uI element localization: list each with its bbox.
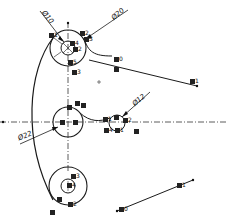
centerline-endpoint bbox=[67, 22, 69, 24]
constraint-marker[interactable]: 3 bbox=[84, 36, 93, 42]
constraint-marker[interactable]: 5 bbox=[68, 59, 77, 65]
constraint-marker[interactable] bbox=[50, 209, 55, 215]
marker-index: 1 bbox=[182, 181, 186, 188]
constraint-marker[interactable]: 2 bbox=[73, 46, 82, 52]
constraint-marker[interactable] bbox=[75, 100, 80, 106]
constraint-marker[interactable]: 1 bbox=[49, 32, 58, 38]
radial-line bbox=[54, 52, 61, 57]
cad-drawing-canvas[interactable]: Ø10 Ø20 Ø12 Ø22 1 2 3 4 2 5 3 0 1 1 2 4 … bbox=[0, 0, 228, 219]
top-right-line[interactable] bbox=[89, 60, 197, 86]
constraint-marker[interactable]: 2 bbox=[123, 117, 132, 123]
constraint-icon bbox=[60, 120, 65, 125]
marker-index: 1 bbox=[120, 126, 124, 133]
marker-index: 2 bbox=[73, 200, 77, 207]
constraint-icon bbox=[114, 115, 119, 120]
constraint-marker[interactable] bbox=[73, 119, 78, 125]
constraint-marker[interactable] bbox=[57, 196, 62, 202]
constraint-marker[interactable] bbox=[60, 119, 65, 125]
constraint-marker[interactable] bbox=[134, 128, 139, 134]
constraint-marker[interactable] bbox=[67, 104, 72, 110]
centerline-endpoint bbox=[2, 121, 4, 123]
drawing-svg bbox=[0, 0, 228, 219]
constraint-icon bbox=[57, 197, 62, 202]
marker-index: 3 bbox=[76, 172, 80, 179]
constraint-marker[interactable] bbox=[114, 66, 119, 72]
constraint-icon bbox=[75, 101, 80, 106]
marker-index: 1 bbox=[195, 77, 199, 84]
constraint-marker[interactable]: 1 bbox=[177, 182, 186, 188]
line-endpoint bbox=[116, 210, 118, 212]
constraint-icon bbox=[50, 210, 55, 215]
constraint-icon bbox=[67, 105, 72, 110]
constraint-marker[interactable]: 4 bbox=[67, 182, 76, 188]
marker-index: 2 bbox=[78, 45, 82, 52]
constraint-marker[interactable]: 4 bbox=[104, 127, 113, 133]
marker-index: 1 bbox=[108, 115, 112, 122]
left-tangent-arc[interactable] bbox=[32, 38, 53, 200]
constraint-icon bbox=[81, 103, 86, 108]
marker-index: 3 bbox=[77, 68, 81, 75]
constraint-marker[interactable]: 3 bbox=[72, 69, 81, 75]
constraint-marker[interactable]: 0 bbox=[119, 206, 128, 212]
constraint-marker[interactable]: 0 bbox=[114, 56, 123, 62]
constraint-marker[interactable] bbox=[81, 102, 86, 108]
marker-index: 4 bbox=[109, 126, 113, 133]
marker-index: 5 bbox=[73, 58, 77, 65]
constraint-marker[interactable]: 1 bbox=[115, 127, 124, 133]
constraint-icon bbox=[114, 67, 119, 72]
marker-index: 3 bbox=[89, 35, 93, 42]
marker-index: 1 bbox=[54, 31, 58, 38]
arrowhead bbox=[58, 36, 64, 42]
marker-index: 0 bbox=[119, 55, 123, 62]
marker-index: 2 bbox=[128, 116, 132, 123]
constraint-marker[interactable] bbox=[114, 114, 119, 120]
constraint-marker[interactable]: 2 bbox=[68, 201, 77, 207]
constraint-marker[interactable]: 1 bbox=[190, 78, 199, 84]
constraint-marker[interactable]: 3 bbox=[71, 173, 80, 179]
constraint-icon bbox=[73, 120, 78, 125]
marker-index: 0 bbox=[124, 205, 128, 212]
marker-index: 4 bbox=[72, 181, 76, 188]
constraint-marker[interactable]: 1 bbox=[103, 116, 112, 122]
line-endpoint bbox=[196, 85, 198, 87]
constraint-icon bbox=[134, 129, 139, 134]
line-endpoint bbox=[192, 179, 194, 181]
